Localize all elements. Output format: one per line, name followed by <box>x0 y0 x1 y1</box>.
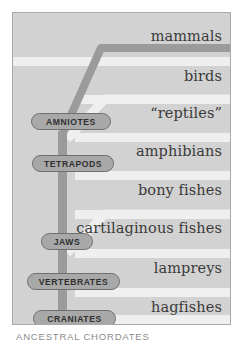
taxon-label-amphibians: amphibians <box>136 144 222 159</box>
taxon-label-hagfishes: hagfishes <box>151 300 222 315</box>
taxon-label-bony-fishes: bony fishes <box>138 183 222 198</box>
taxon-label-reptiles: “reptiles” <box>150 106 222 121</box>
ancestral-chordates-caption: ANCESTRAL CHORDATES <box>16 331 150 342</box>
taxon-label-lampreys: lampreys <box>154 261 222 276</box>
diagram-panel: mammals birds “reptiles” amphibians bony… <box>12 12 231 325</box>
clade-badge-amniotes: AMNIOTES <box>31 113 111 130</box>
clade-badge-vertebrates: VERTEBRATES <box>27 273 120 290</box>
taxon-label-mammals: mammals <box>151 29 222 44</box>
taxon-label-cartilaginous-fishes: cartilaginous fishes <box>76 221 222 236</box>
clade-badge-craniates: CRANIATES <box>33 310 116 325</box>
taxon-label-birds: birds <box>184 69 222 84</box>
clade-badge-jaws: JAWS <box>41 233 93 250</box>
clade-badge-tetrapods: TETRAPODS <box>32 155 114 172</box>
cladogram-figure: mammals birds “reptiles” amphibians bony… <box>0 0 246 364</box>
